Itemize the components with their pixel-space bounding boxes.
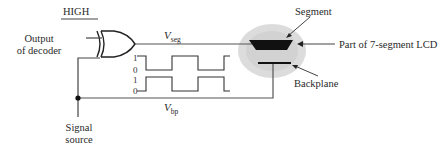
waveform-top-high-label: 1 [133,53,138,63]
waveform-top-low-label: 0 [133,65,138,75]
lcd-segment [249,40,293,50]
xor-gate [97,31,135,57]
vbp-wire [78,63,273,98]
waveform-top [137,56,230,70]
waveform-bottom-high-label: 1 [133,75,138,85]
signal-label-line2: source [55,134,103,146]
waveform-bottom [137,77,230,91]
lcd-part-label: Part of 7-segment LCD [339,39,437,51]
segment-label: Segment [295,6,332,18]
waveform-bottom-low-label: 0 [133,86,138,96]
junction-dot [75,95,80,100]
vbp-label: Vbp [164,101,178,116]
decoder-label-line2: of decoder [10,45,68,57]
vseg-label: Vseg [164,29,181,44]
signal-input-wire [78,58,100,117]
decoder-label-line1: Output [10,33,68,45]
backplane-label: Backplane [294,78,338,90]
signal-label-line1: Signal [55,122,103,134]
high-label: HIGH [63,6,89,18]
